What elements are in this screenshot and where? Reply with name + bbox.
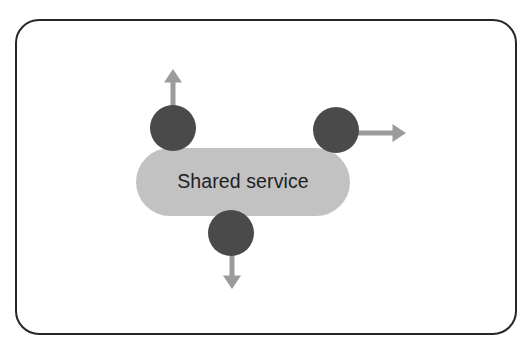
shared-service-diagram: Shared service xyxy=(0,0,526,346)
shared-service-label: Shared service xyxy=(177,170,308,192)
node-top-left[interactable] xyxy=(150,105,196,151)
diagram-canvas: Shared service xyxy=(0,0,526,346)
node-right[interactable] xyxy=(313,107,359,153)
node-bottom[interactable] xyxy=(208,210,254,256)
